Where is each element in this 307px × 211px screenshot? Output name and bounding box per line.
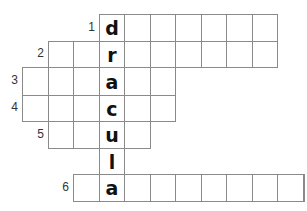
clue-number: 3	[2, 73, 18, 87]
key-letter-cell[interactable]: a	[99, 174, 125, 202]
clue-number: 5	[28, 127, 44, 141]
key-letter-cell[interactable]: l	[99, 148, 125, 175]
crossword-cell[interactable]	[201, 41, 227, 68]
crossword-cell[interactable]	[226, 14, 253, 42]
crossword-cell[interactable]	[201, 14, 227, 42]
key-letter-cell[interactable]: a	[99, 67, 125, 96]
crossword-cell[interactable]	[124, 41, 151, 68]
crossword-cell[interactable]	[150, 95, 176, 122]
key-letter-cell[interactable]: r	[99, 41, 125, 68]
crossword-cell[interactable]	[73, 67, 100, 96]
crossword-cell[interactable]	[73, 41, 100, 68]
crossword-cell[interactable]	[48, 121, 74, 149]
crossword-cell[interactable]	[252, 174, 278, 202]
crossword-cell[interactable]	[73, 121, 100, 149]
clue-number: 4	[2, 100, 18, 114]
crossword-cell[interactable]	[277, 174, 304, 202]
crossword-cell[interactable]	[226, 174, 253, 202]
crossword-cell[interactable]	[73, 95, 100, 122]
clue-number: 2	[28, 46, 44, 60]
crossword-cell[interactable]	[175, 41, 202, 68]
crossword-cell[interactable]	[48, 67, 74, 96]
crossword-grid: 1d2r3a4c5ul6a	[0, 0, 307, 211]
key-letter-cell[interactable]: u	[99, 121, 125, 149]
crossword-cell[interactable]	[150, 67, 176, 96]
clue-number: 6	[53, 180, 69, 194]
crossword-cell[interactable]	[150, 174, 176, 202]
crossword-cell[interactable]	[201, 174, 227, 202]
crossword-cell[interactable]	[124, 95, 151, 122]
crossword-cell[interactable]	[124, 14, 151, 42]
crossword-cell[interactable]	[48, 95, 74, 122]
key-letter-cell[interactable]: c	[99, 95, 125, 122]
crossword-cell[interactable]	[124, 67, 151, 96]
crossword-cell[interactable]	[22, 95, 49, 122]
crossword-cell[interactable]	[226, 41, 253, 68]
crossword-cell[interactable]	[124, 174, 151, 202]
crossword-cell[interactable]	[150, 14, 176, 42]
crossword-cell[interactable]	[48, 41, 74, 68]
key-letter-cell[interactable]: d	[99, 14, 125, 42]
crossword-cell[interactable]	[303, 174, 305, 202]
crossword-cell[interactable]	[73, 174, 100, 202]
crossword-cell[interactable]	[252, 14, 278, 42]
crossword-cell[interactable]	[175, 174, 202, 202]
clue-number: 1	[79, 20, 95, 34]
crossword-cell[interactable]	[252, 41, 278, 68]
crossword-cell[interactable]	[175, 14, 202, 42]
crossword-cell[interactable]	[124, 121, 151, 149]
crossword-cell[interactable]	[150, 41, 176, 68]
crossword-cell[interactable]	[22, 67, 49, 96]
